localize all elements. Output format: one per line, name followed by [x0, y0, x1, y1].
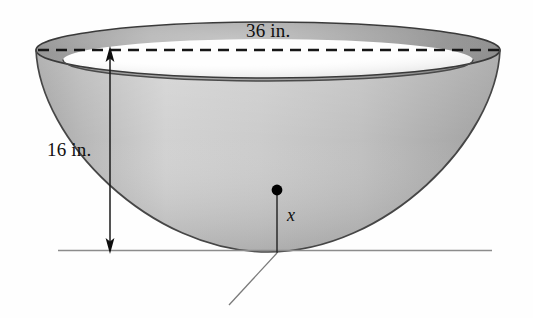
variable-x-label: x: [287, 206, 295, 224]
depth-label: 16 in.: [47, 140, 91, 159]
x-leader-line: [229, 253, 277, 305]
bowl-diagram-figure: 36 in. 16 in. x: [0, 0, 533, 318]
diameter-label: 36 in.: [246, 21, 290, 40]
x-point-dot: [272, 185, 283, 196]
